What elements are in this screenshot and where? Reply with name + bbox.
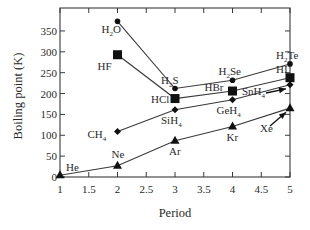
point-label: He [66, 161, 79, 173]
x-tick-label: 4 [230, 183, 236, 195]
x-tick-label: 1.5 [82, 183, 96, 195]
circle-marker [230, 77, 236, 83]
triangle-marker [286, 103, 295, 111]
square-marker [228, 87, 237, 96]
point-label: Ar [169, 145, 181, 157]
diamond-marker [287, 81, 294, 88]
point-label: H2O [102, 23, 121, 38]
diamond-marker [114, 128, 121, 135]
circle-marker [172, 86, 178, 92]
x-tick-label: 5 [287, 183, 293, 195]
square-marker [113, 50, 122, 59]
point-label: SnH4 [242, 85, 266, 100]
point-label: HBr [205, 81, 224, 93]
x-axis-title: Period [159, 206, 192, 220]
x-tick-label: 2 [115, 183, 121, 195]
y-tick-label: 350 [41, 25, 58, 37]
diamond-marker [172, 106, 179, 113]
y-tick-label: 100 [41, 129, 58, 141]
point-label: CH4 [88, 128, 107, 143]
boiling-point-chart: 11.522.533.544.55050100150200250300350 H… [0, 0, 310, 230]
y-tick-label: 250 [41, 67, 58, 79]
x-tick-label: 3 [172, 183, 178, 195]
point-label: H2Te [276, 49, 298, 64]
point-label: HCl [151, 93, 169, 105]
point-label: Xe [260, 122, 273, 134]
y-tick-label: 50 [46, 150, 58, 162]
point-label: Ne [112, 148, 125, 160]
y-tick-label: 200 [41, 88, 58, 100]
diamond-marker [229, 96, 236, 103]
x-tick-label: 2.5 [139, 183, 153, 195]
arrowhead-icon [279, 87, 286, 93]
point-label: HF [98, 60, 112, 72]
y-axis-title: Boiling point (K) [11, 53, 25, 140]
point-label: H2Se [219, 65, 242, 80]
x-tick-label: 1 [57, 183, 63, 195]
square-marker [171, 94, 180, 103]
point-label: GeH4 [217, 104, 242, 119]
x-tick-label: 4.5 [254, 183, 268, 195]
x-tick-label: 3.5 [197, 183, 211, 195]
series-group: H2OH2SH2SeH2TeHFHClHBrHICH4SiH4GeH4SnH4H… [56, 19, 299, 179]
point-label: Kr [227, 131, 239, 143]
point-label: SiH4 [161, 114, 182, 129]
point-label: HI [276, 63, 288, 75]
circle-marker [287, 61, 293, 67]
y-tick-label: 300 [41, 46, 58, 58]
series-line [118, 21, 291, 88]
y-tick-label: 150 [41, 108, 58, 120]
series-group-16-hydrides: H2OH2SH2SeH2Te [102, 19, 299, 92]
